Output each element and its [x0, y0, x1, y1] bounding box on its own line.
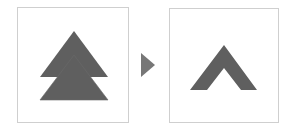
chevron-up-icon — [190, 45, 257, 90]
double-triangle-icon — [40, 31, 108, 100]
lower-triangle — [40, 55, 108, 100]
right-arrow-icon — [141, 53, 155, 77]
diagram-canvas — [0, 0, 296, 138]
